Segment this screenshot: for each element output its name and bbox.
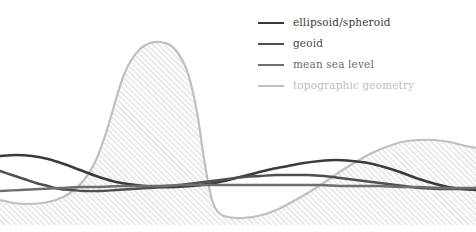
legend-item-topographic-geometry: topographic geometry [258,75,470,96]
legend-label: topographic geometry [293,80,414,91]
legend-label: geoid [293,38,323,49]
line-swatch-icon [258,43,284,45]
chart-legend: ellipsoid/spheroid geoid mean sea level … [258,12,470,96]
line-swatch-icon [258,22,284,24]
legend-item-geoid: geoid [258,33,470,54]
legend-item-mean-sea-level: mean sea level [258,54,470,75]
line-swatch-icon [258,64,284,66]
legend-label: ellipsoid/spheroid [293,17,391,28]
legend-item-ellipsoid-spheroid: ellipsoid/spheroid [258,12,470,33]
geodesy-cross-section-figure: ellipsoid/spheroid geoid mean sea level … [0,0,476,232]
line-swatch-icon [258,85,284,87]
legend-label: mean sea level [293,59,374,70]
